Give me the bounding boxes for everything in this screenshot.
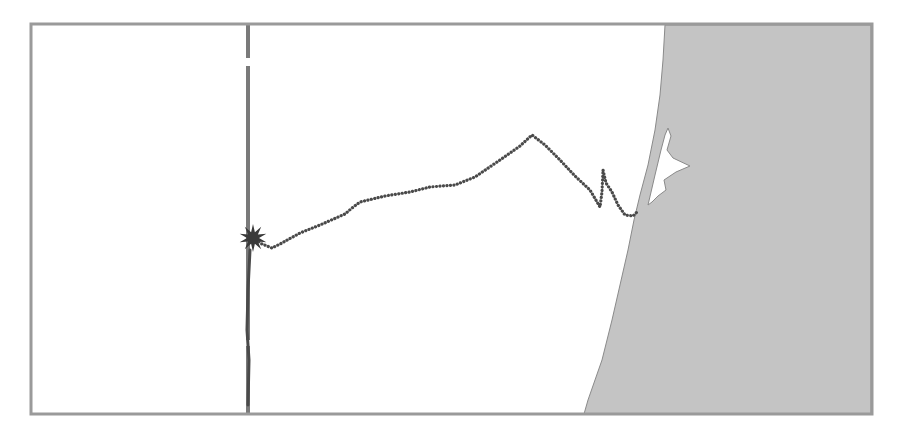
map-canvas	[0, 0, 900, 437]
